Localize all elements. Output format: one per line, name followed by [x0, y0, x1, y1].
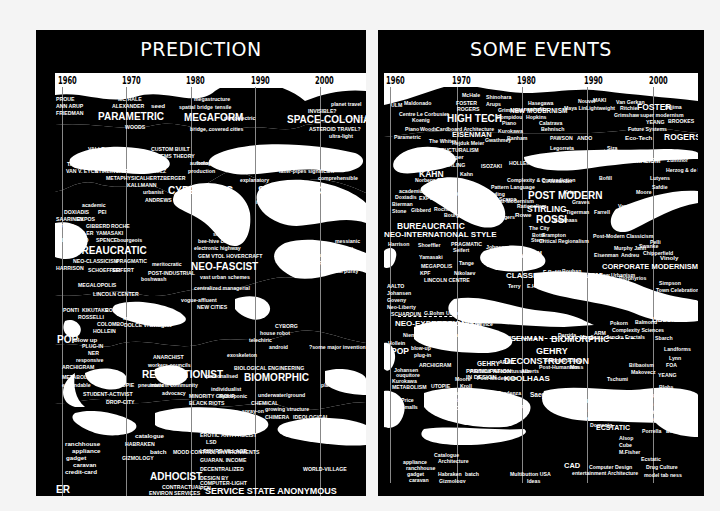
label: SYSTEMS THEORY — [147, 154, 195, 159]
label: Bourgeoisie — [444, 213, 474, 218]
label: HARRISON — [56, 266, 84, 271]
label: SPENCE — [96, 238, 117, 243]
major-label-er: ER — [56, 485, 70, 495]
label: Tigerman — [566, 210, 589, 215]
label: plug-in — [414, 353, 431, 358]
label: HABRAKEN — [125, 442, 155, 447]
year-2000: 2000 — [649, 75, 668, 86]
label: SEIFERT — [112, 268, 134, 273]
label: KPF — [420, 271, 430, 276]
label: service — [213, 232, 231, 237]
events-chart: 1960 1970 1980 1990 2000 ULM Maldonado M… — [384, 73, 698, 483]
label: NEO-CLASSICISM — [73, 259, 118, 264]
label: credit-card — [65, 469, 97, 475]
label: LLEWOOD — [62, 238, 89, 243]
year-1980: 1980 — [186, 75, 205, 86]
label: Dolce Vita — [433, 333, 458, 338]
label: NORBERG-SCHULZ — [117, 169, 166, 174]
label: M.Fisher — [619, 450, 640, 455]
major-label-pop: POP — [391, 347, 409, 356]
label: Post-Modern Classicism — [593, 234, 653, 239]
label: MEGALOPOLIS — [78, 283, 116, 288]
label: teeny bopper — [221, 426, 254, 431]
label: STIRLING — [441, 163, 465, 168]
label: model tab ness — [644, 473, 682, 478]
year-line-2000 — [320, 87, 321, 496]
label: Ritchie — [620, 106, 637, 111]
label: explanatory — [240, 178, 269, 183]
label: seed — [151, 103, 165, 109]
label: Mecanoo — [634, 409, 656, 414]
label: Farrell — [594, 210, 610, 215]
label: Johansen — [387, 291, 411, 296]
major-label-gehry: GEHRY — [536, 347, 568, 356]
year-line-1990 — [587, 87, 588, 483]
label: classical purity — [321, 269, 359, 274]
label: ISOZAKI — [481, 164, 502, 169]
label: futuribles — [193, 206, 217, 211]
label: Bilbaoism — [629, 363, 654, 368]
label: STONE — [56, 224, 74, 229]
year-1960: 1960 — [58, 75, 77, 86]
label: electronic highway — [194, 246, 241, 251]
label: ouquitore — [396, 373, 420, 378]
label: bourgeois — [117, 238, 142, 243]
label-libeskind: LIBESKIND — [652, 317, 687, 324]
label: Arquitectonica — [580, 415, 623, 421]
label: ULM — [391, 103, 402, 108]
label: exoskeleton — [227, 353, 257, 358]
label: responsive — [76, 358, 103, 363]
label: Venturi — [438, 178, 456, 183]
label: android — [269, 345, 288, 350]
label: barriada — [94, 376, 114, 381]
label: Piano — [502, 121, 516, 126]
label: Lutyens — [650, 176, 670, 181]
label: piezoelectric — [224, 116, 255, 121]
year-1970: 1970 — [122, 75, 141, 86]
label: intellectual — [256, 200, 283, 205]
prediction-title: PREDICTION — [36, 38, 366, 60]
label: BROOKES — [668, 119, 694, 124]
label: Bierman — [392, 202, 413, 207]
year-1980: 1980 — [517, 75, 536, 86]
label: Scarpa — [499, 197, 516, 202]
label: Nikolaev — [454, 271, 475, 276]
label: Sbarch — [655, 336, 673, 341]
label: Woods — [420, 127, 437, 132]
major-label-corporate-modernism: CORPORATE MODERNISM — [602, 263, 698, 271]
label: METABOLIST — [62, 375, 95, 380]
label: UN Studio — [670, 416, 695, 421]
label: advocacy — [162, 391, 186, 396]
label: UTOPIE — [115, 383, 134, 388]
label: PAWSON — [550, 136, 573, 141]
label: ANN ARUP — [56, 104, 83, 109]
label: CHIMERA — [265, 415, 289, 420]
label: Terry — [508, 284, 521, 289]
label: Koolhaas — [554, 218, 577, 223]
label: ?some major invention? — [309, 345, 366, 350]
major-label-stirling: STIRLING — [527, 205, 567, 214]
label: centralized managerial — [194, 286, 250, 291]
label: time city — [285, 208, 306, 213]
label: Shoeffler — [418, 243, 440, 248]
label: HOLLEIN — [93, 329, 116, 334]
label-saegin: Saegin — [530, 392, 551, 399]
label: Stone — [392, 209, 406, 214]
label: spatial — [179, 105, 195, 110]
label: Porrella — [642, 429, 661, 434]
label: bridge, covered cities — [190, 127, 243, 132]
label: FUNDAMENTALIST — [319, 261, 366, 266]
label: Ungers — [497, 215, 515, 220]
year-1990: 1990 — [251, 75, 270, 86]
label: C.Alexander — [542, 179, 572, 184]
year-line-2000 — [653, 87, 654, 483]
label: SCHAROUN — [391, 312, 421, 317]
label: ENVIRON SERVICES — [149, 491, 200, 496]
label: METAPHYSICAL — [106, 176, 147, 181]
label: meritocratic — [152, 262, 182, 267]
label: LINCOLN CENTRE — [424, 278, 470, 283]
label: LINCOLN CENTER — [93, 292, 139, 297]
label: Pokorn — [610, 321, 628, 326]
major-label-new-modernism: NEW MODERNISM — [510, 108, 567, 115]
label: New Urbanism — [599, 273, 635, 278]
